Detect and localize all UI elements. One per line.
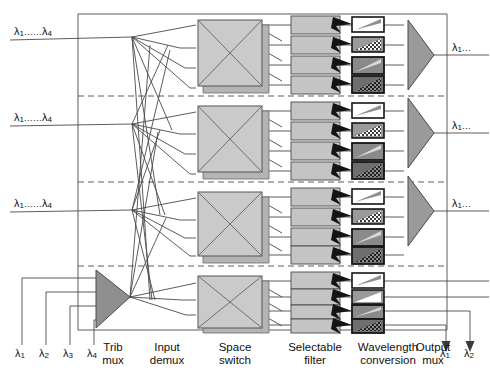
space-switch-row-2 [198, 106, 269, 179]
trib-input-label-2: λ2 [39, 348, 49, 361]
caption-line-2: switch [205, 354, 265, 367]
caption-line-2: demux [137, 354, 197, 367]
diagram-canvas [0, 0, 490, 377]
column-caption-input-demux: Input demux [137, 341, 197, 366]
output-mux-row-2 [408, 98, 434, 168]
trib-mux-triangle [96, 270, 130, 328]
drop-output-label-2: λ2 [464, 348, 474, 361]
space-switch-blocks [198, 20, 269, 333]
caption-line-2: mux [88, 354, 138, 367]
column-caption-selectable-filter: Selectable filter [278, 341, 352, 366]
wavelength-conversion-row-1 [352, 17, 384, 93]
space-switch-row-4 [198, 276, 269, 333]
trib-mux-input-lines [22, 278, 96, 345]
caption-line-1: Selectable [278, 341, 352, 354]
input-label-row-3: λ1......λ4 [14, 198, 52, 211]
trib-input-label-1: λ1 [15, 348, 25, 361]
input-label-row-1: λ1......λ4 [14, 26, 52, 39]
caption-line-1: Space [205, 341, 265, 354]
caption-line-1: Input [137, 341, 197, 354]
column-caption-output-mux: Output mux [409, 341, 457, 366]
wavelength-conversion-row-4 [352, 273, 384, 333]
caption-line-2: filter [278, 354, 352, 367]
wavelength-conversion-row-3 [352, 189, 384, 264]
output-mux-triangles [408, 20, 434, 246]
input-demux-fanout-row-1 [132, 25, 196, 300]
output-mux-row-3 [408, 176, 434, 246]
output-label-row-2: λ1... [452, 120, 471, 133]
input-label-row-2: λ1......λ4 [14, 112, 52, 125]
caption-line-1: Trib [88, 341, 138, 354]
column-caption-trib-mux: Trib mux [88, 341, 138, 366]
column-caption-space-switch: Space switch [205, 341, 265, 366]
wavelength-conversion-blocks [352, 17, 384, 333]
wavelength-conversion-row-2 [352, 103, 384, 179]
output-mux-row-1 [408, 20, 434, 90]
output-label-row-3: λ1... [452, 198, 471, 211]
caption-line-1: Output [409, 341, 457, 354]
output-label-row-1: λ1... [452, 42, 471, 55]
space-switch-row-3 [198, 192, 269, 263]
output-mux-lines [434, 55, 489, 211]
optical-cross-connect-diagram: λ1......λ4 λ1......λ4 λ1......λ4 λ1... λ… [0, 0, 490, 377]
drop-routing-lines [384, 281, 489, 345]
trib-input-label-3: λ3 [63, 348, 73, 361]
caption-line-2: mux [409, 354, 457, 367]
space-switch-row-1 [198, 20, 269, 93]
